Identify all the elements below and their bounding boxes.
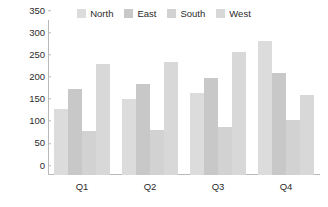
x-axis-tick-label: Q3	[184, 182, 252, 192]
plot-area: 050100150200250300350Q1Q2Q3Q4	[48, 20, 320, 175]
y-axis-tick-label: 0	[24, 161, 45, 171]
legend-swatch-icon	[167, 9, 176, 18]
y-axis-tick: 50	[24, 139, 48, 149]
y-axis-tick: 150	[24, 94, 48, 104]
y-axis-tick-label: 350	[24, 6, 45, 16]
bar-north-q3[interactable]	[190, 93, 204, 175]
bar-east-q1[interactable]	[68, 89, 82, 175]
y-axis-tick: 100	[24, 116, 48, 126]
bar-south-q2[interactable]	[150, 130, 164, 175]
legend-item-label: East	[137, 9, 156, 19]
y-axis-tick: 200	[24, 72, 48, 82]
bar-south-q3[interactable]	[218, 127, 232, 175]
y-axis-tick-label: 150	[24, 94, 45, 104]
bar-north-q2[interactable]	[122, 99, 136, 175]
y-axis-tick-mark	[48, 10, 51, 11]
x-axis-tick-label: Q4	[252, 182, 320, 192]
y-axis-tick: 0	[24, 161, 48, 171]
y-axis-tick: 300	[24, 28, 48, 38]
y-axis-tick: 350	[24, 6, 48, 16]
bar-group-q1: Q1	[48, 20, 116, 175]
legend-swatch-icon	[77, 9, 86, 18]
legend-item-label: North	[90, 9, 113, 19]
y-axis-tick: 250	[24, 50, 48, 60]
y-axis-tick-label: 50	[24, 139, 45, 149]
bar-group-q4: Q4	[252, 20, 320, 175]
y-axis-tick-label: 100	[24, 116, 45, 126]
y-axis-tick-label: 200	[24, 72, 45, 82]
bar-west-q4[interactable]	[300, 95, 314, 175]
y-axis-tick-label: 300	[24, 28, 45, 38]
legend-swatch-icon	[216, 9, 225, 18]
legend-item-south[interactable]: South	[167, 9, 205, 19]
legend-item-east[interactable]: East	[124, 9, 156, 19]
legend-item-label: West	[229, 9, 250, 19]
bar-group-q2: Q2	[116, 20, 184, 175]
y-axis-tick-label: 250	[24, 50, 45, 60]
bar-east-q2[interactable]	[136, 84, 150, 175]
legend-item-label: South	[180, 9, 205, 19]
bar-east-q4[interactable]	[272, 73, 286, 175]
bar-south-q4[interactable]	[286, 120, 300, 175]
bar-group-q3: Q3	[184, 20, 252, 175]
legend-item-north[interactable]: North	[77, 9, 113, 19]
bar-north-q4[interactable]	[258, 41, 272, 175]
bar-west-q3[interactable]	[232, 52, 246, 175]
legend-swatch-icon	[124, 9, 133, 18]
bar-west-q2[interactable]	[164, 62, 178, 175]
bar-west-q1[interactable]	[96, 64, 110, 175]
x-axis-tick-label: Q2	[116, 182, 184, 192]
bar-south-q1[interactable]	[82, 131, 96, 175]
bar-north-q1[interactable]	[54, 109, 68, 175]
x-axis-tick-label: Q1	[48, 182, 116, 192]
bar-chart: NorthEastSouthWest 050100150200250300350…	[0, 0, 328, 207]
legend-item-west[interactable]: West	[216, 9, 250, 19]
bar-east-q3[interactable]	[204, 78, 218, 175]
